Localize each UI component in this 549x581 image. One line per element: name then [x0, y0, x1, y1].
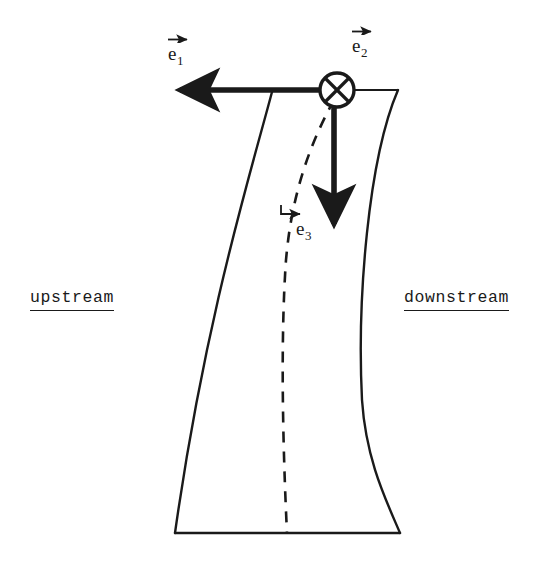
e1-overarrow-icon — [167, 33, 193, 43]
e3-label-base: e — [296, 218, 304, 239]
e1-label-subscript: 1 — [177, 53, 184, 68]
figure-canvas: upstream downstream e1 e2 e3 — [0, 0, 549, 581]
e2-label-base: e — [352, 35, 360, 56]
e3-vector-label: e3 — [296, 219, 311, 238]
e3-overarrow-icon — [278, 204, 308, 220]
e2-label-subscript: 2 — [361, 45, 368, 60]
e3-label-subscript: 3 — [305, 228, 312, 243]
downstream-region-label: downstream — [404, 290, 509, 311]
streamline-centerline-dashed — [283, 100, 334, 533]
origin-circle-cross-icon — [320, 73, 354, 107]
streamtube-left-boundary — [175, 92, 272, 533]
streamtube-outline — [175, 90, 400, 533]
e2-overarrow-icon — [351, 25, 377, 35]
upstream-region-label: upstream — [30, 290, 114, 311]
streamtube-right-boundary — [361, 90, 400, 533]
e1-vector-label: e1 — [168, 44, 183, 63]
e1-label-base: e — [168, 43, 176, 64]
e2-vector-label: e2 — [352, 36, 367, 55]
